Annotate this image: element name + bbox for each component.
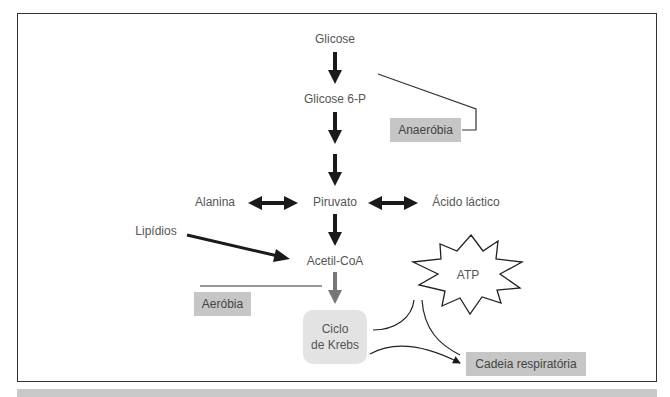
node-glicose-6p: Glicose 6-P (304, 92, 366, 106)
krebs-line-2: de Krebs (311, 337, 359, 353)
arrow-acetilcoa-to-krebs (328, 272, 342, 304)
arrow-intermediate-to-piruvato (328, 154, 342, 186)
node-acetil-coa: Acetil-CoA (307, 254, 364, 268)
arrow-lipidios-to-acetilcoa (187, 235, 290, 262)
curve-krebs-to-cadeia (370, 346, 460, 363)
curve-krebs-to-atp (373, 300, 414, 330)
arrow-piruvato-to-acetilcoa (328, 214, 342, 246)
arrow-glicose-to-g6p (328, 52, 342, 84)
arrow-g6p-to-intermediate (328, 112, 342, 144)
node-atp: ATP (457, 268, 479, 282)
krebs-line-1: Ciclo (322, 321, 349, 337)
node-alanina: Alanina (195, 195, 235, 209)
double-arrow-piruvato-acido-latico (368, 196, 418, 210)
phase-anaerobia: Anaeróbia (390, 118, 461, 142)
double-arrow-alanina-piruvato (248, 196, 298, 210)
node-piruvato: Piruvato (313, 195, 357, 209)
node-ciclo-krebs: Ciclo de Krebs (303, 310, 367, 364)
node-glicose: Glicose (315, 32, 355, 46)
node-acido-latico: Ácido láctico (432, 195, 499, 209)
node-lipidios: Lipídios (135, 224, 176, 238)
node-cadeia-respiratoria: Cadeia respiratória (466, 352, 586, 376)
curve-atp-to-cadeia (422, 300, 460, 355)
phase-aerobia: Aeróbia (194, 292, 251, 316)
